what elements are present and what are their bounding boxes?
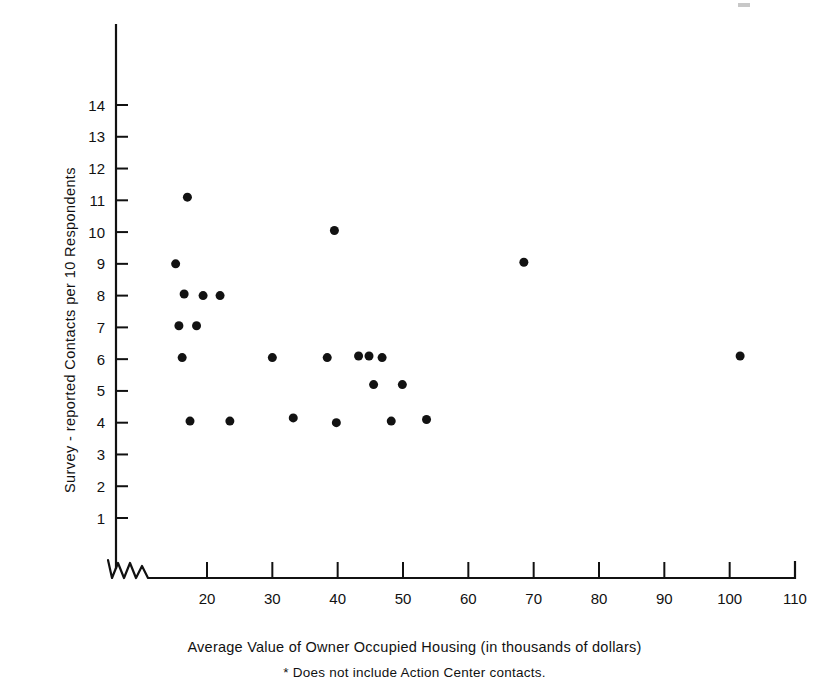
- y-tick-label: 3: [97, 446, 105, 463]
- data-point: [422, 415, 431, 424]
- x-tick-label: 50: [395, 590, 412, 607]
- y-tick-label: 11: [89, 192, 105, 209]
- x-tick-label: 20: [199, 590, 216, 607]
- data-point: [387, 417, 396, 426]
- y-tick-label: 2: [97, 478, 105, 495]
- data-point: [330, 226, 339, 235]
- x-axis: [108, 560, 795, 578]
- chart-footnote: * Does not include Action Center contact…: [0, 665, 829, 680]
- y-axis: [116, 25, 128, 568]
- scatter-plot: 1234567891011121314 20304050607080901001…: [0, 0, 829, 683]
- x-tick-label: 80: [591, 590, 608, 607]
- data-point: [180, 290, 189, 299]
- data-point: [178, 353, 187, 362]
- y-tick-label: 14: [88, 97, 105, 114]
- data-point: [369, 380, 378, 389]
- x-tick-labels: 2030405060708090100110: [199, 590, 807, 607]
- scan-artifact: [738, 3, 750, 7]
- y-tick-label: 12: [88, 160, 105, 177]
- data-point: [183, 193, 192, 202]
- x-tick-label: 30: [264, 590, 281, 607]
- data-point: [171, 259, 180, 268]
- data-point-series: [171, 193, 744, 428]
- y-tick-label: 7: [97, 319, 105, 336]
- x-tick-label: 110: [783, 590, 807, 607]
- x-axis-break-icon: [108, 560, 152, 578]
- data-point: [192, 321, 201, 330]
- data-point: [398, 380, 407, 389]
- x-axis-title: Average Value of Owner Occupied Housing …: [0, 639, 829, 655]
- y-tick-label: 6: [97, 351, 105, 368]
- x-tick-label: 100: [717, 590, 742, 607]
- y-tick-marks: [116, 105, 128, 518]
- data-point: [289, 413, 298, 422]
- data-point: [365, 351, 374, 360]
- y-tick-label: 9: [97, 255, 105, 272]
- x-tick-label: 90: [656, 590, 673, 607]
- y-tick-labels: 1234567891011121314: [88, 97, 105, 527]
- data-point: [736, 351, 745, 360]
- data-point: [186, 417, 195, 426]
- y-tick-label: 5: [97, 382, 105, 399]
- data-point: [332, 418, 341, 427]
- data-point: [225, 417, 234, 426]
- x-tick-label: 70: [525, 590, 542, 607]
- y-tick-label: 8: [97, 287, 105, 304]
- y-tick-label: 13: [88, 128, 105, 145]
- y-axis-title: Survey - reported Contacts per 10 Respon…: [62, 110, 78, 550]
- y-tick-label: 10: [88, 224, 105, 241]
- y-tick-label: 4: [97, 414, 105, 431]
- data-point: [216, 291, 225, 300]
- x-tick-label: 40: [329, 590, 346, 607]
- data-point: [199, 291, 208, 300]
- data-point: [354, 351, 363, 360]
- data-point: [268, 353, 277, 362]
- data-point: [174, 321, 183, 330]
- data-point: [378, 353, 387, 362]
- data-point: [519, 258, 528, 267]
- x-tick-marks: [207, 562, 730, 578]
- data-point: [323, 353, 332, 362]
- x-axis-line: [152, 562, 795, 578]
- x-tick-label: 60: [460, 590, 477, 607]
- y-tick-label: 1: [97, 510, 105, 527]
- chart-page: 1234567891011121314 20304050607080901001…: [0, 0, 829, 683]
